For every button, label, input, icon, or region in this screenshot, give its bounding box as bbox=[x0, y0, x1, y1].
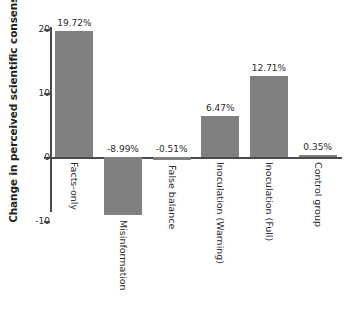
bar-chart: Change in perceived scientific consensus… bbox=[0, 0, 345, 313]
bar-value-label: 0.35% bbox=[283, 142, 345, 152]
category-label-slot: Inoculation (Full) bbox=[245, 162, 294, 312]
bar[interactable] bbox=[104, 157, 142, 215]
bar-value-label: 19.72% bbox=[39, 18, 109, 28]
bar-value-label: -0.51% bbox=[137, 144, 207, 154]
category-label: Misinformation bbox=[117, 220, 128, 291]
category-label-slot: False balance bbox=[147, 165, 196, 313]
category-label-slot: Facts-only bbox=[50, 162, 99, 312]
y-axis-title-text: Change in perceived scientific consensus bbox=[7, 0, 19, 222]
category-label: Control group bbox=[312, 162, 323, 227]
bar[interactable] bbox=[299, 155, 337, 157]
category-label: Facts-only bbox=[69, 162, 80, 210]
bar-value-label: 12.71% bbox=[234, 63, 304, 73]
category-label-slot: Inoculation (Warning) bbox=[196, 162, 245, 312]
bar[interactable] bbox=[153, 157, 191, 160]
category-label-slot: Control group bbox=[293, 162, 342, 312]
category-label: Inoculation (Warning) bbox=[215, 162, 226, 264]
bar-value-label: 6.47% bbox=[185, 103, 255, 113]
category-label: False balance bbox=[166, 165, 177, 229]
bar[interactable] bbox=[201, 116, 239, 157]
category-label-slot: Misinformation bbox=[99, 220, 148, 313]
bar-slot bbox=[104, 20, 142, 220]
category-label: Inoculation (Full) bbox=[263, 162, 274, 241]
bar[interactable] bbox=[55, 31, 93, 157]
